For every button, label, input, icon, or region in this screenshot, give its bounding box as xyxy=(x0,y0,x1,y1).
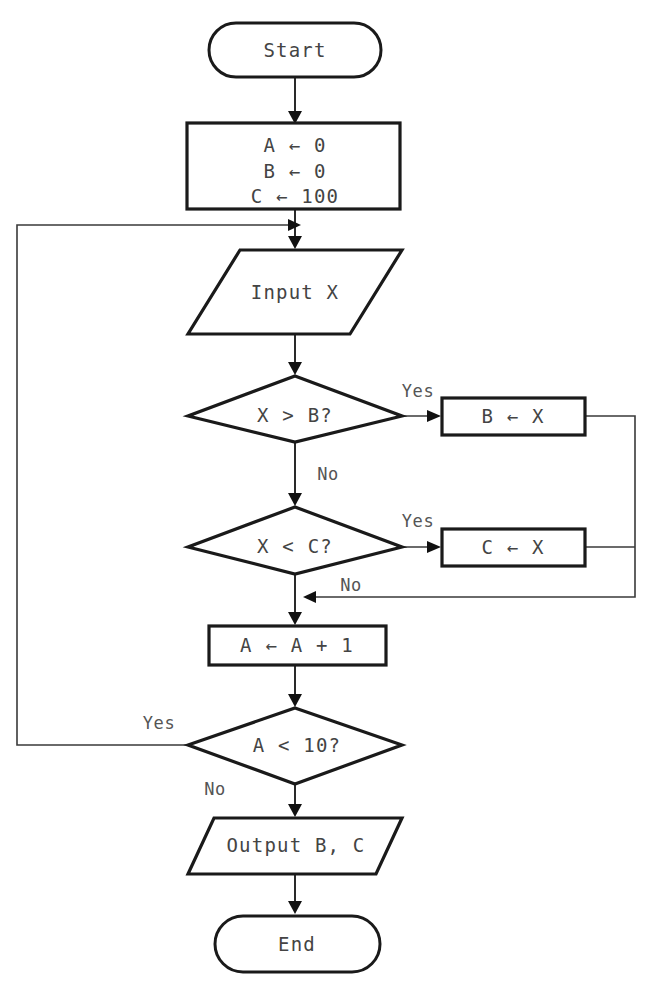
node-output: Output B, C xyxy=(188,818,402,874)
node-init-line2: B ← 0 xyxy=(263,160,326,182)
node-end: End xyxy=(215,916,380,972)
node-input-label: Input X xyxy=(251,281,339,303)
node-end-label: End xyxy=(278,933,316,955)
edge-label-min-no: No xyxy=(340,575,362,595)
edge-start-to-init xyxy=(288,78,302,124)
edge-loop-no xyxy=(288,785,302,817)
edge-increment-to-loop xyxy=(288,665,302,707)
node-decision-max-label: X > B? xyxy=(257,404,333,426)
edge-label-max-no: No xyxy=(317,464,339,484)
edge-label-loop-yes: Yes xyxy=(143,713,176,733)
edge-max-no xyxy=(288,443,302,506)
node-decision-loop: A < 10? xyxy=(188,708,402,784)
node-start-label: Start xyxy=(263,39,326,61)
node-init: A ← 0 B ← 0 C ← 100 xyxy=(187,123,400,209)
node-init-line3: C ← 100 xyxy=(251,185,339,207)
edge-min-no xyxy=(288,575,302,625)
node-decision-min-label: X < C? xyxy=(257,535,333,557)
node-assign-b: B ← X xyxy=(442,398,585,435)
node-input: Input X xyxy=(188,250,402,334)
node-assign-b-label: B ← X xyxy=(481,405,544,427)
node-increment: A ← A + 1 xyxy=(209,626,386,665)
edge-label-max-yes: Yes xyxy=(402,381,435,401)
node-start: Start xyxy=(209,23,381,77)
node-decision-max: X > B? xyxy=(188,376,402,442)
edge-max-yes xyxy=(402,410,441,422)
flowchart-canvas: Start A ← 0 B ← 0 C ← 100 Input X X > B?… xyxy=(0,0,653,993)
node-assign-c-label: C ← X xyxy=(481,536,544,558)
node-output-label: Output B, C xyxy=(226,834,365,856)
edge-min-yes xyxy=(402,541,441,553)
edge-label-loop-no: No xyxy=(204,779,226,799)
node-init-line1: A ← 0 xyxy=(263,134,326,156)
edge-input-to-decision-max xyxy=(288,335,302,375)
edge-label-min-yes: Yes xyxy=(402,511,435,531)
node-decision-loop-label: A < 10? xyxy=(253,734,341,756)
node-assign-c: C ← X xyxy=(442,529,585,566)
node-increment-label: A ← A + 1 xyxy=(240,634,354,656)
node-decision-min: X < C? xyxy=(188,507,402,574)
flowchart-diagram: Start A ← 0 B ← 0 C ← 100 Input X X > B?… xyxy=(0,0,653,993)
edge-output-to-end xyxy=(288,875,302,914)
